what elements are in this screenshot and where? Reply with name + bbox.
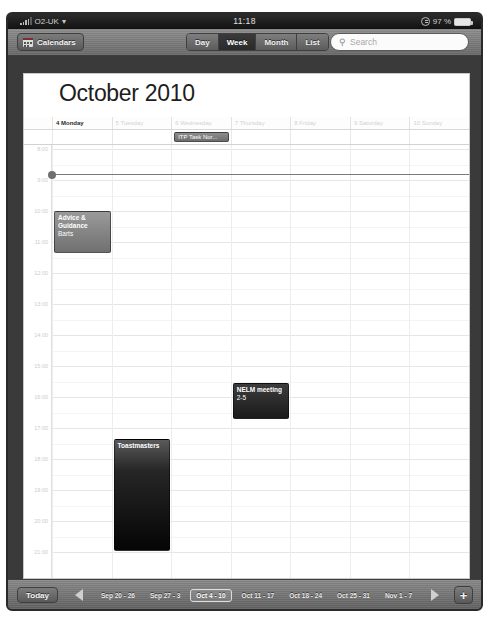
status-bar-right: 97 %: [421, 14, 471, 29]
calendars-button-label: Calendars: [37, 38, 76, 47]
allday-cell-tuesday[interactable]: [112, 130, 172, 144]
day-columns: Advice & Guidance Barts Toastmasters NEL…: [52, 145, 469, 578]
calendar-icon: [23, 38, 33, 47]
allday-cell-saturday[interactable]: [350, 130, 410, 144]
allday-cell-wednesday[interactable]: ITP Task Nor...: [171, 130, 231, 144]
ipad-device-frame: O2-UK ▾ 11:18 97 % Calendars Day Week Mo…: [6, 12, 483, 611]
current-time-knob: [48, 171, 56, 179]
time-label-20: 20:00: [34, 518, 48, 524]
day-column-friday[interactable]: [290, 145, 350, 578]
tab-week[interactable]: Week: [219, 34, 257, 50]
day-header-row: 4 Monday 5 Tuesday 6 Wednesday 7 Thursda…: [24, 117, 469, 130]
battery-icon: [454, 18, 471, 26]
week-chip-sep-20[interactable]: Sep 20 - 26: [96, 590, 140, 601]
allday-cell-friday[interactable]: [290, 130, 350, 144]
week-chip-oct-18[interactable]: Oct 18 - 24: [284, 590, 327, 601]
calendar-grid: 8:00 9:00 10:00 11:00 12:00 13:00 14:00 …: [24, 145, 469, 578]
bottom-toolbar: Today Sep 20 - 26 Sep 27 - 3 Oct 4 - 10 …: [8, 579, 481, 609]
tab-month[interactable]: Month: [256, 34, 297, 50]
day-column-sunday[interactable]: [409, 145, 469, 578]
allday-cell-monday[interactable]: [52, 130, 112, 144]
top-toolbar: Calendars Day Week Month List ⚲ Search: [8, 29, 481, 56]
allday-row-gutter: [24, 130, 52, 144]
status-bar-clock: 11:18: [8, 14, 481, 29]
add-event-button[interactable]: +: [454, 586, 473, 604]
time-label-19: 19:00: [34, 487, 48, 493]
tab-day[interactable]: Day: [187, 34, 219, 50]
day-header-monday[interactable]: 4 Monday: [52, 117, 112, 129]
search-input[interactable]: ⚲ Search: [330, 33, 469, 51]
allday-cell-sunday[interactable]: [409, 130, 469, 144]
allday-gutter-label: [24, 117, 52, 129]
time-label-14: 14:00: [34, 332, 48, 338]
status-bar: O2-UK ▾ 11:18 97 %: [8, 14, 481, 29]
today-button[interactable]: Today: [17, 587, 58, 603]
event-toastmasters[interactable]: Toastmasters: [114, 439, 171, 551]
search-icon: ⚲: [339, 37, 346, 47]
next-arrow-icon[interactable]: [431, 589, 439, 601]
week-scroller[interactable]: Sep 20 - 26 Sep 27 - 3 Oct 4 - 10 Oct 11…: [92, 587, 421, 603]
day-header-tuesday[interactable]: 5 Tuesday: [112, 117, 172, 129]
event-nelm-meeting[interactable]: NELM meeting 2-5: [233, 383, 290, 419]
time-label-16: 16:00: [34, 394, 48, 400]
calendars-button[interactable]: Calendars: [17, 33, 84, 51]
day-header-thursday[interactable]: 7 Thursday: [231, 117, 291, 129]
view-segmented-control[interactable]: Day Week Month List: [186, 33, 329, 51]
week-chip-oct-4[interactable]: Oct 4 - 10: [190, 589, 231, 602]
week-chip-oct-25[interactable]: Oct 25 - 31: [332, 590, 375, 601]
calendar-week-view: October 2010 4 Monday 5 Tuesday 6 Wednes…: [23, 73, 470, 579]
week-chip-oct-11[interactable]: Oct 11 - 17: [237, 590, 280, 601]
time-label-9: 9:00: [37, 177, 48, 183]
day-header-saturday[interactable]: 9 Saturday: [350, 117, 410, 129]
day-header-wednesday[interactable]: 6 Wednesday: [171, 117, 231, 129]
time-gutter: 8:00 9:00 10:00 11:00 12:00 13:00 14:00 …: [24, 145, 52, 578]
time-label-12: 12:00: [34, 270, 48, 276]
time-label-15: 15:00: [34, 363, 48, 369]
day-column-monday[interactable]: Advice & Guidance Barts: [52, 145, 112, 578]
all-day-row: ITP Task Nor...: [24, 130, 469, 145]
current-time-indicator: [52, 174, 469, 175]
time-label-10: 10:00: [34, 208, 48, 214]
event-itp-task[interactable]: ITP Task Nor...: [174, 132, 229, 142]
time-label-11: 11:00: [35, 239, 48, 245]
search-placeholder: Search: [350, 37, 377, 47]
day-column-thursday[interactable]: NELM meeting 2-5: [231, 145, 291, 578]
day-header-sunday[interactable]: 10 Sunday: [409, 117, 469, 129]
day-column-tuesday[interactable]: Toastmasters: [112, 145, 172, 578]
page-title: October 2010: [59, 80, 195, 107]
week-chip-sep-27[interactable]: Sep 27 - 3: [145, 590, 185, 601]
day-column-wednesday[interactable]: [171, 145, 231, 578]
battery-percent-label: 97 %: [433, 14, 451, 29]
time-label-18: 18:00: [34, 456, 48, 462]
time-label-21: 21:00: [34, 549, 48, 555]
rotation-lock-icon: [421, 17, 430, 26]
tab-list[interactable]: List: [297, 34, 327, 50]
time-label-13: 13:00: [34, 301, 48, 307]
allday-cell-thursday[interactable]: [231, 130, 291, 144]
day-header-friday[interactable]: 8 Friday: [290, 117, 350, 129]
time-label-17: 17:00: [34, 425, 48, 431]
week-chip-nov-1[interactable]: Nov 1 - 7: [380, 590, 417, 601]
time-label-8: 8:00: [37, 146, 48, 152]
day-column-saturday[interactable]: [350, 145, 410, 578]
previous-arrow-icon[interactable]: [75, 589, 83, 601]
event-advice-guidance[interactable]: Advice & Guidance Barts: [54, 211, 111, 253]
